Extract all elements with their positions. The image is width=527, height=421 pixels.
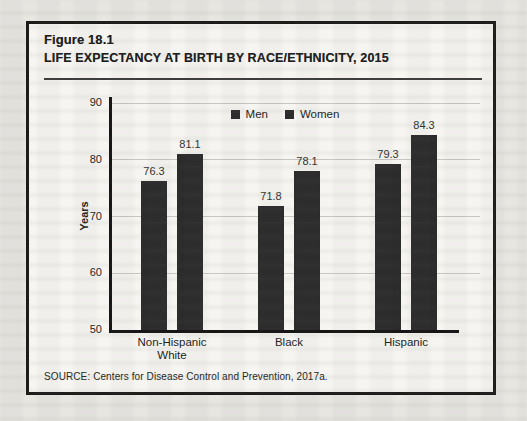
bar-women-hispanic (411, 135, 437, 330)
gridline-90 (112, 103, 480, 104)
value-men-hispanic: 79.3 (377, 148, 398, 160)
y-tick-90: 90 (69, 96, 102, 108)
bar-men-black (258, 206, 284, 330)
plot-area: MenWomen 908070605076.371.879.381.178.18… (112, 103, 458, 330)
y-axis-title: Years (78, 194, 90, 238)
figure-title: LIFE EXPECTANCY AT BIRTH BY RACE/ETHNICI… (44, 51, 389, 65)
legend-swatch-women (285, 110, 294, 119)
y-axis-line (109, 97, 112, 333)
value-women-non-hispanic-white: 81.1 (179, 138, 200, 150)
y-tick-60: 60 (69, 266, 102, 278)
legend-swatch-men (231, 110, 240, 119)
y-tick-50: 50 (69, 323, 102, 335)
legend-item-women: Women (285, 108, 339, 120)
bar-men-non-hispanic-white (141, 181, 167, 330)
title-rule (44, 78, 482, 80)
legend: MenWomen (112, 108, 458, 120)
bar-men-hispanic (375, 164, 401, 330)
x-axis-line (109, 330, 459, 333)
value-men-non-hispanic-white: 76.3 (143, 165, 164, 177)
legend-label-men: Men (246, 108, 268, 120)
x-label-hispanic: Hispanic (384, 336, 428, 349)
figure-number: Figure 18.1 (44, 32, 114, 47)
value-women-black: 78.1 (296, 155, 317, 167)
x-label-non-hispanic-white: Non-Hispanic White (137, 336, 206, 362)
figure-box: Figure 18.1 LIFE EXPECTANCY AT BIRTH BY … (26, 21, 496, 395)
y-tick-80: 80 (69, 153, 102, 165)
x-label-black: Black (275, 336, 303, 349)
value-women-hispanic: 84.3 (413, 119, 434, 131)
source-line: SOURCE: Centers for Disease Control and … (44, 371, 328, 382)
value-men-black: 71.8 (260, 190, 281, 202)
legend-label-women: Women (300, 108, 339, 120)
book-page: { "figure": { "label": "Figure 18.1", "t… (0, 0, 527, 421)
bar-women-black (294, 171, 320, 330)
legend-item-men: Men (231, 108, 268, 120)
bar-women-non-hispanic-white (177, 154, 203, 330)
